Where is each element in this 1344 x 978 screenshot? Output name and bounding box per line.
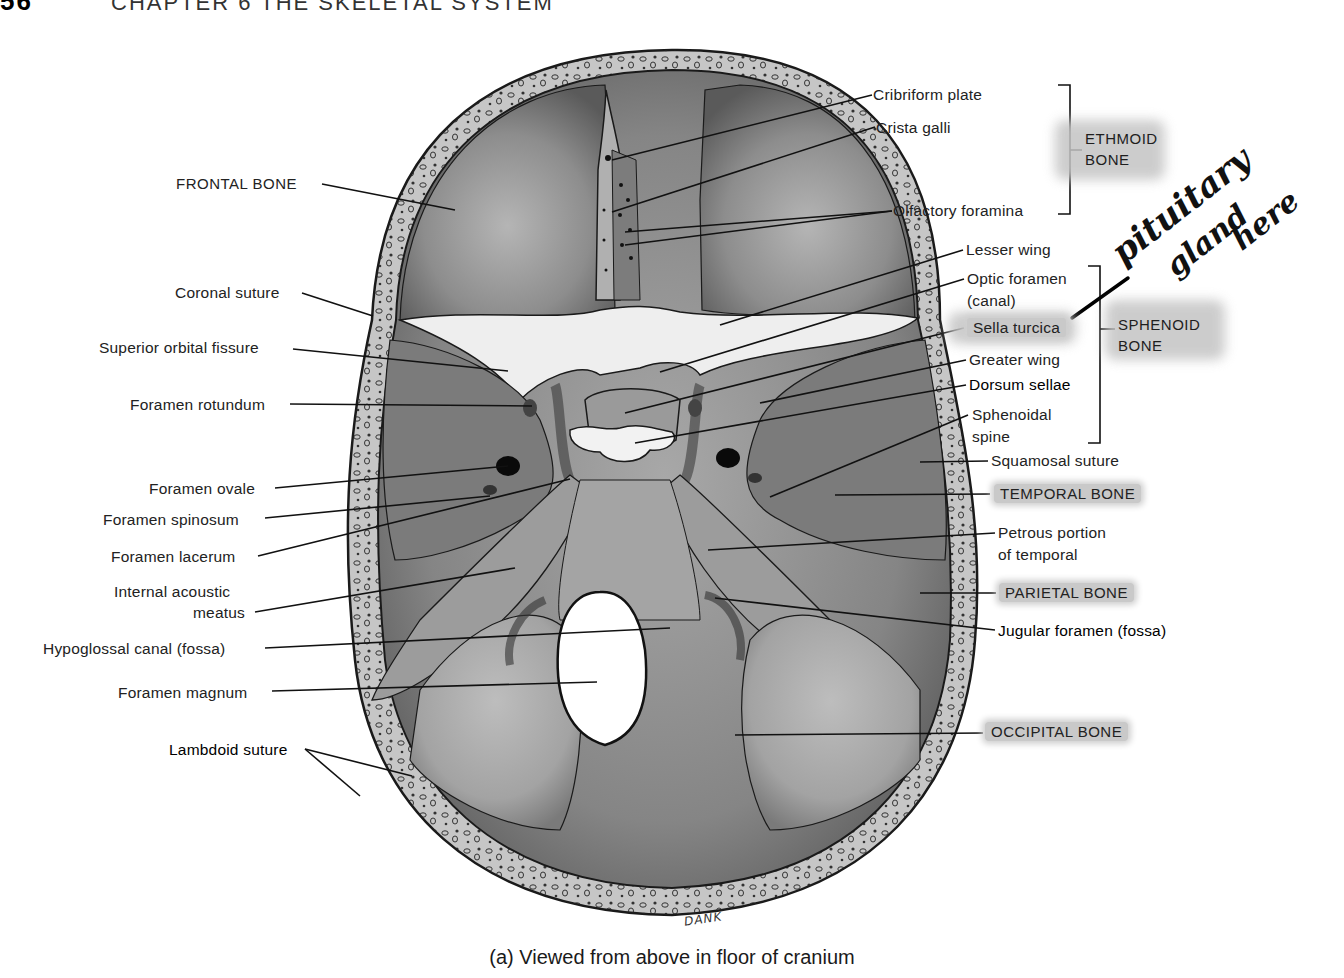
label-text: Squamosal suture <box>991 452 1119 469</box>
label-occipital-bone: OCCIPITAL BONE <box>985 721 1128 742</box>
label-optic-foramen-2: (canal) <box>967 290 1016 311</box>
label-text: meatus <box>193 604 245 621</box>
label-text: PARIETAL BONE <box>999 583 1134 602</box>
label-petrous-portion-1: Petrous portion <box>998 522 1106 543</box>
label-text: TEMPORAL BONE <box>994 484 1141 503</box>
label-text: Jugular foramen (fossa) <box>998 622 1166 639</box>
label-text: Foramen lacerum <box>111 548 235 565</box>
label-text: Foramen spinosum <box>103 511 239 528</box>
label-internal-acoustic-meatus-1: Internal acoustic <box>114 581 230 602</box>
label-text: Dorsum sellae <box>969 376 1071 393</box>
label-optic-foramen-1: Optic foramen <box>967 268 1067 289</box>
label-text: Hypoglossal canal (fossa) <box>43 640 225 657</box>
label-text: Lesser wing <box>966 241 1051 258</box>
label-text: Optic foramen <box>967 270 1067 287</box>
label-text: Foramen ovale <box>149 480 255 497</box>
label-crista-galli: Crista galli <box>876 117 951 138</box>
label-text: spine <box>972 428 1010 445</box>
label-text: Coronal suture <box>175 284 279 301</box>
label-sphenoidal-spine-1: Sphenoidal <box>972 404 1052 425</box>
sphenoid-line-1: SPHENOID <box>1118 314 1200 335</box>
label-temporal-bone: TEMPORAL BONE <box>994 483 1141 504</box>
label-dorsum-sellae: Dorsum sellae <box>969 374 1071 395</box>
sphenoid-line-2: BONE <box>1118 335 1200 356</box>
label-text: Greater wing <box>969 351 1060 368</box>
label-jugular-foramen: Jugular foramen (fossa) <box>998 620 1166 641</box>
label-lesser-wing: Lesser wing <box>966 239 1051 260</box>
label-text: Petrous portion <box>998 524 1106 541</box>
label-frontal-bone: FRONTAL BONE <box>176 173 297 194</box>
label-sella-turcica: Sella turcica <box>967 317 1066 338</box>
label-internal-acoustic-meatus-2: meatus <box>193 602 245 623</box>
ethmoid-line-2: BONE <box>1085 149 1158 170</box>
label-parietal-bone: PARIETAL BONE <box>999 582 1134 603</box>
label-olfactory-foramina: Olfactory foramina <box>893 200 1023 221</box>
label-foramen-magnum: Foramen magnum <box>118 682 247 703</box>
figure-caption: (a) Viewed from above in floor of craniu… <box>0 946 1344 969</box>
label-coronal-suture: Coronal suture <box>175 282 279 303</box>
label-hypoglossal-canal: Hypoglossal canal (fossa) <box>43 638 225 659</box>
anterior-cranial-fossa <box>400 85 615 320</box>
label-text: Foramen magnum <box>118 684 247 701</box>
label-text: OCCIPITAL BONE <box>985 722 1128 741</box>
sphenoid-bone-label: SPHENOID BONE <box>1118 314 1200 356</box>
label-squamosal-suture: Squamosal suture <box>991 450 1119 471</box>
label-text: FRONTAL BONE <box>176 175 297 192</box>
label-foramen-spinosum: Foramen spinosum <box>103 509 239 530</box>
label-text: (canal) <box>967 292 1016 309</box>
label-foramen-lacerum: Foramen lacerum <box>111 546 235 567</box>
label-petrous-portion-2: of temporal <box>998 544 1078 565</box>
label-sphenoidal-spine-2: spine <box>972 426 1010 447</box>
label-foramen-ovale: Foramen ovale <box>149 478 255 499</box>
foramen-ovale-right <box>716 448 740 468</box>
label-superior-orbital-fissure: Superior orbital fissure <box>99 337 259 358</box>
label-text: Olfactory foramina <box>893 202 1023 219</box>
label-text: Internal acoustic <box>114 583 230 600</box>
cribriform-plate <box>612 150 640 300</box>
label-text: Sphenoidal <box>972 406 1052 423</box>
label-text: Lambdoid suture <box>169 741 287 758</box>
label-foramen-rotundum: Foramen rotundum <box>130 394 265 415</box>
label-text: of temporal <box>998 546 1078 563</box>
label-text: Sella turcica <box>967 318 1066 337</box>
label-text: Superior orbital fissure <box>99 339 259 356</box>
ethmoid-line-1: ETHMOID <box>1085 128 1158 149</box>
label-text: Crista galli <box>876 119 951 136</box>
label-cribriform-plate: Cribriform plate <box>873 84 982 105</box>
ethmoid-bone-label: ETHMOID BONE <box>1085 128 1158 170</box>
label-lambdoid-suture: Lambdoid suture <box>169 739 287 760</box>
label-text: Foramen rotundum <box>130 396 265 413</box>
label-text: Cribriform plate <box>873 86 982 103</box>
label-greater-wing: Greater wing <box>969 349 1060 370</box>
